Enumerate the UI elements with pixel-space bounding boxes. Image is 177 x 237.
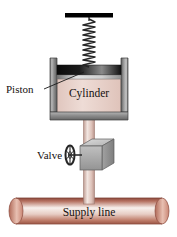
supply-line-left-cap <box>9 198 23 224</box>
support-bar-body <box>65 13 113 18</box>
piston-underside-band <box>57 75 121 79</box>
supply-line-right-cap <box>155 198 169 224</box>
valve-front-face <box>80 146 102 170</box>
cylinder-base-plate <box>50 112 128 120</box>
cylinder-right-wall <box>121 58 128 112</box>
valve-label: Valve <box>37 149 62 161</box>
figure-canvas: Piston Cylinder Valve Supply line <box>0 0 177 237</box>
ceiling-support-bar <box>65 13 113 18</box>
piston-label: Piston <box>6 83 34 95</box>
piston-cylinder-diagram: Piston Cylinder Valve Supply line <box>0 0 177 237</box>
supply-line-label: Supply line <box>63 206 116 219</box>
cylinder-label: Cylinder <box>69 87 109 100</box>
